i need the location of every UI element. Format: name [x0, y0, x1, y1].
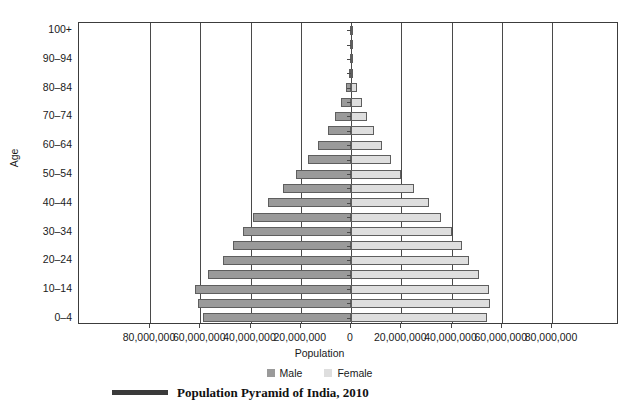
y-axis-tick-labels: 0–410–1420–2430–3440–4450–5460–6470–7480… [0, 0, 72, 401]
legend-item-male: Male [267, 367, 303, 379]
y-axis-tick [347, 131, 351, 132]
y-axis-tick-label: 60–64 [43, 139, 72, 150]
x-axis-tick [350, 324, 351, 328]
gridline [200, 23, 201, 323]
y-axis-tick-label: 50–54 [43, 168, 72, 179]
x-axis-tick-label: 80,000,000 [123, 332, 176, 343]
plot-area [78, 22, 618, 324]
legend-item-female: Female [324, 367, 372, 379]
bar-male [268, 198, 351, 207]
y-axis-tick [347, 30, 351, 31]
y-axis-tick [347, 303, 351, 304]
bar-female [351, 155, 391, 164]
y-axis-tick-label: 80–84 [43, 82, 72, 93]
y-axis-tick-label: 30–34 [43, 226, 72, 237]
x-axis-tick [400, 324, 401, 328]
x-axis-tick-label: 80,000,000 [525, 332, 578, 343]
y-axis-tick-label: 20–24 [43, 254, 72, 265]
bar-female [351, 83, 357, 92]
figure-caption: Population Pyramid of India, 2010 [0, 386, 639, 401]
bar-female [351, 299, 490, 308]
y-axis-tick [347, 59, 351, 60]
bar-female [351, 285, 489, 294]
bar-male [308, 155, 351, 164]
y-axis-tick [347, 275, 351, 276]
population-pyramid-figure: Age 0–410–1420–2430–3440–4450–5460–6470–… [0, 0, 639, 401]
bar-female [351, 213, 441, 222]
y-axis-tick [347, 88, 351, 89]
bar-female [351, 170, 401, 179]
y-axis-tick [347, 174, 351, 175]
x-axis-title: Population [0, 347, 639, 359]
legend-label-female: Female [337, 367, 372, 379]
y-axis-tick-label: 10–14 [43, 283, 72, 294]
bar-female [351, 54, 353, 63]
caption-text: Population Pyramid of India, 2010 [177, 386, 369, 400]
y-axis-tick-label: 90–94 [43, 53, 72, 64]
x-axis-tick [199, 324, 200, 328]
x-axis-tick [451, 324, 452, 328]
y-axis-tick [347, 116, 351, 117]
bar-female [351, 141, 382, 150]
y-axis-tick [347, 318, 351, 319]
gridline [552, 23, 553, 323]
y-axis-tick [347, 188, 351, 189]
x-axis-tick-label: 40,000,000 [223, 332, 276, 343]
y-axis-tick [347, 102, 351, 103]
x-axis-tick-label: 20,000,000 [273, 332, 326, 343]
bar-female [351, 69, 353, 78]
x-axis-tick [149, 324, 150, 328]
bar-male [296, 170, 351, 179]
bar-male [243, 227, 351, 236]
y-axis-tick [347, 246, 351, 247]
bar-female [351, 98, 362, 107]
x-axis-tick-label: 20,000,000 [374, 332, 427, 343]
bar-male [195, 285, 351, 294]
bar-female [351, 40, 353, 49]
bar-female [351, 313, 487, 322]
y-axis-tick [347, 45, 351, 46]
bar-male [283, 184, 351, 193]
y-axis-tick [347, 160, 351, 161]
bar-female [351, 126, 374, 135]
gridline [150, 23, 151, 323]
bar-male [253, 213, 351, 222]
y-axis-tick [347, 203, 351, 204]
x-axis-tick [551, 324, 552, 328]
x-axis-tick-label: 40,000,000 [424, 332, 477, 343]
chart-legend: Male Female [0, 367, 639, 379]
bar-male [198, 299, 351, 308]
y-axis-tick [347, 289, 351, 290]
bar-female [351, 227, 452, 236]
x-axis-tick-label: 60,000,000 [474, 332, 527, 343]
y-axis-tick [347, 232, 351, 233]
gridline [502, 23, 503, 323]
y-axis-tick-label: 100+ [48, 24, 72, 35]
bar-female [351, 198, 429, 207]
female-swatch-icon [324, 369, 332, 377]
y-axis-tick-label: 0–4 [54, 312, 72, 323]
y-axis-tick [347, 145, 351, 146]
x-axis-tick-label: 0 [347, 332, 353, 343]
x-axis-tick [300, 324, 301, 328]
bar-female [351, 26, 353, 35]
bar-male [233, 241, 351, 250]
bar-female [351, 241, 462, 250]
bar-female [351, 112, 367, 121]
male-swatch-icon [267, 369, 275, 377]
bar-female [351, 256, 469, 265]
x-axis-tick-label: 60,000,000 [173, 332, 226, 343]
bar-male [208, 270, 351, 279]
bar-female [351, 184, 414, 193]
y-axis-tick [347, 73, 351, 74]
y-axis-tick-label: 40–44 [43, 197, 72, 208]
x-axis-tick [250, 324, 251, 328]
y-axis-tick-label: 70–74 [43, 110, 72, 121]
bar-female [351, 270, 479, 279]
y-axis-tick [347, 217, 351, 218]
bar-male [223, 256, 351, 265]
caption-rule [112, 390, 168, 395]
bar-male [203, 313, 351, 322]
legend-label-male: Male [280, 367, 303, 379]
x-axis-tick [501, 324, 502, 328]
